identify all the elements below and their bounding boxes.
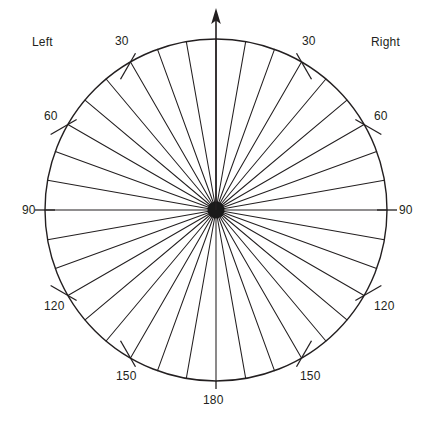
label-right-120: 120: [374, 300, 395, 312]
label-right-hemisphere: Right: [371, 36, 400, 48]
label-left-60: 60: [44, 110, 58, 122]
polar-diagram: Left Right 30 30 60 60 90 90 120 120 150…: [0, 0, 431, 432]
label-right-60: 60: [374, 110, 388, 122]
label-bottom-180: 180: [203, 394, 224, 406]
label-right-90: 90: [399, 204, 413, 216]
label-left-30: 30: [115, 35, 129, 47]
label-left-150: 150: [116, 370, 137, 382]
polar-grid-svg: [0, 0, 431, 432]
label-right-30: 30: [302, 35, 316, 47]
label-right-150: 150: [300, 370, 321, 382]
label-left-120: 120: [44, 300, 65, 312]
label-left-hemisphere: Left: [32, 36, 53, 48]
label-left-90: 90: [22, 204, 36, 216]
